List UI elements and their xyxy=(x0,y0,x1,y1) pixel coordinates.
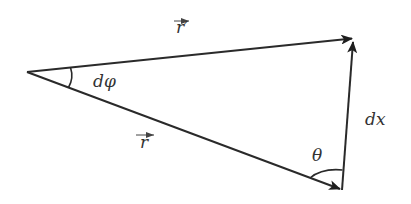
vector-r xyxy=(27,72,340,189)
label-dx: dx xyxy=(365,109,386,129)
vector-r-prime xyxy=(27,39,352,73)
vector-dx xyxy=(342,42,353,190)
label-r: r xyxy=(140,132,149,152)
angle-arc-theta xyxy=(310,170,343,178)
vector-triangle-diagram: r′ r dφ dx θ xyxy=(0,0,411,204)
label-d-phi: dφ xyxy=(93,71,116,91)
angle-arc-dphi xyxy=(69,68,72,88)
label-r-prime: r′ xyxy=(176,17,188,37)
label-r-prime-group: r′ xyxy=(174,17,189,37)
label-theta: θ xyxy=(312,145,322,165)
label-r-group: r xyxy=(136,132,154,152)
